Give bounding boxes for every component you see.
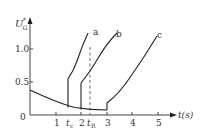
curve-c-label: c: [157, 30, 162, 40]
curve-b: [81, 33, 117, 110]
characteristic-chart: U * G 1.0 0.5 0 1 t c 2 t R 3 4 5 t(s) a…: [0, 0, 202, 134]
y-axis-arrow-icon: [28, 17, 33, 24]
curve-b-label: b: [116, 29, 122, 39]
y-label-10: 1.0: [15, 44, 30, 54]
y-label-05: 0.5: [15, 77, 30, 87]
x-label-4: 4: [130, 118, 136, 128]
y-axis-label-sup: *: [23, 16, 26, 23]
y-axis-label-sub: G: [23, 24, 28, 31]
x-label-5: 5: [156, 118, 162, 128]
x-label-tR-sub: R: [91, 122, 96, 129]
x-label-2: 2: [79, 118, 85, 128]
curve-a: [68, 33, 88, 108]
origin-label: 0: [20, 112, 26, 122]
x-axis-arrow-icon: [170, 113, 177, 118]
x-axis-label: t(s): [178, 110, 194, 120]
curve-c: [107, 36, 157, 110]
curve-a-label: a: [93, 27, 99, 37]
x-label-tc-sub: c: [70, 122, 74, 129]
x-label-1: 1: [54, 118, 60, 128]
x-label-3: 3: [105, 118, 111, 128]
